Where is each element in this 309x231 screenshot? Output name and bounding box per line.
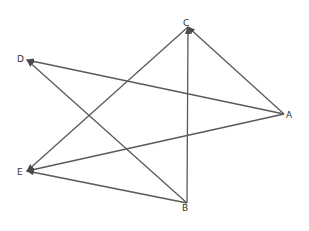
- node-label-c: C: [183, 18, 189, 28]
- node-label-b: B: [182, 203, 188, 213]
- directed-graph: ABCDE: [0, 0, 309, 231]
- edge-c-to-e: [27, 27, 188, 171]
- edge-a-to-e: [27, 114, 284, 171]
- edge-b-to-c: [187, 27, 188, 203]
- node-label-e: E: [17, 167, 23, 177]
- node-label-d: D: [17, 54, 24, 64]
- edge-b-to-e: [27, 171, 187, 203]
- edge-a-to-c: [188, 27, 284, 114]
- node-label-a: A: [286, 110, 293, 120]
- edge-b-to-d: [27, 60, 187, 203]
- edge-layer: [27, 27, 284, 203]
- node-layer: ABCDE: [17, 18, 293, 213]
- edge-a-to-d: [27, 60, 284, 114]
